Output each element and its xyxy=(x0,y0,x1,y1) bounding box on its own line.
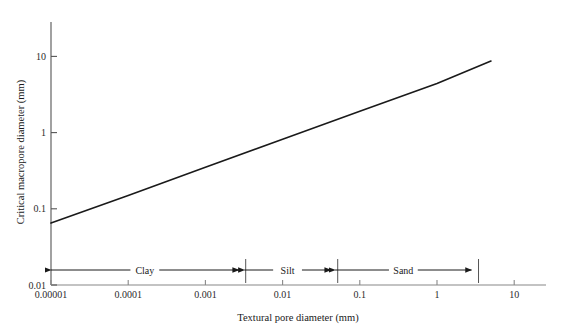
x-tick-label: 0.001 xyxy=(194,289,217,300)
sand-band-label: Sand xyxy=(393,265,413,276)
y-tick-label: 0.1 xyxy=(34,203,47,214)
y-tick-label: 1 xyxy=(41,127,46,138)
chart-figure: 0.010.1110 0.000010.00010.0010.010.1110 … xyxy=(0,0,573,332)
x-axis-title: Textural pore diameter (mm) xyxy=(237,312,359,324)
y-axis-title: Critical macropore diameter (mm) xyxy=(15,79,27,224)
clay-band-label: Clay xyxy=(135,265,154,276)
chart-background xyxy=(0,0,573,332)
x-tick-label: 10 xyxy=(509,289,519,300)
x-tick-label: 0.00001 xyxy=(35,289,68,300)
log-log-line-chart: 0.010.1110 0.000010.00010.0010.010.1110 … xyxy=(0,0,573,332)
x-tick-label: 0.01 xyxy=(274,289,292,300)
x-tick-label: 0.1 xyxy=(354,289,367,300)
x-tick-label: 0.0001 xyxy=(114,289,142,300)
silt-band-label: Silt xyxy=(281,265,295,276)
x-tick-label: 1 xyxy=(435,289,440,300)
y-tick-label: 10 xyxy=(36,51,46,62)
